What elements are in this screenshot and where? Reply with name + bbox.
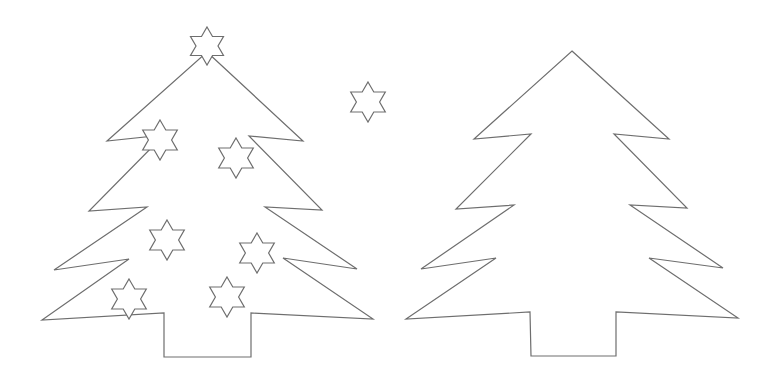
star-ornaments — [112, 27, 386, 319]
star-icon — [143, 120, 178, 160]
drawing-canvas — [0, 0, 775, 386]
star-icon — [150, 220, 185, 260]
star-icon — [219, 138, 254, 178]
star-icon — [240, 233, 275, 273]
trees-drawing — [0, 0, 775, 386]
plain-tree-outline — [406, 51, 738, 356]
star-icon — [210, 277, 245, 317]
star-icon — [191, 27, 224, 65]
star-icon — [351, 82, 386, 122]
star-icon — [112, 279, 147, 319]
decorated-tree-outline — [42, 52, 373, 357]
